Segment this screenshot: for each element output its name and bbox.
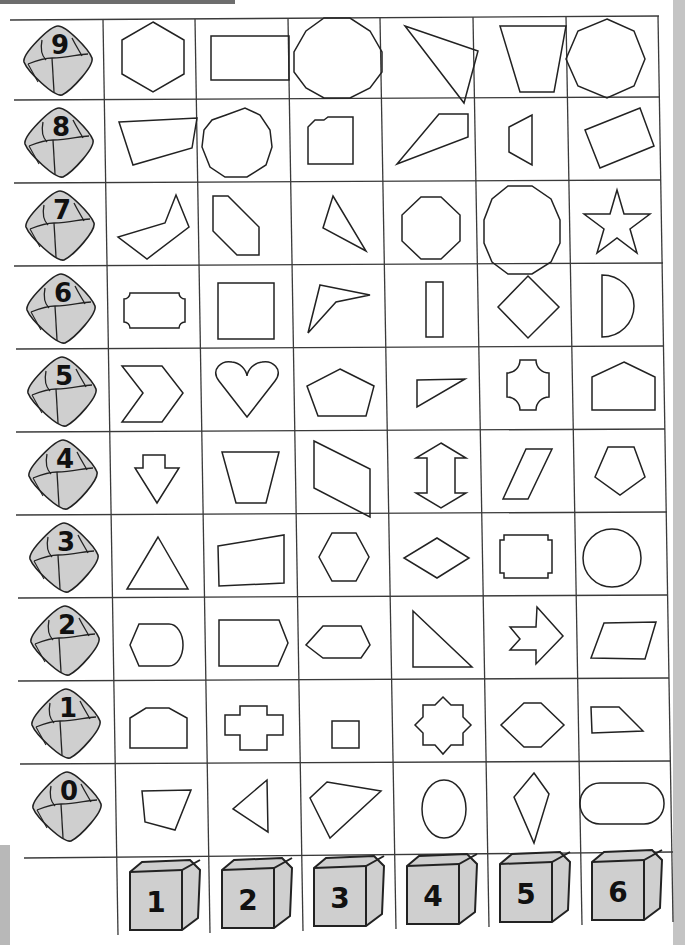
shape-cut-pentagon	[130, 708, 187, 748]
shape-right-trapezoid	[218, 535, 284, 586]
shape-arrow	[510, 607, 563, 664]
shape-kite	[514, 773, 549, 843]
shape-right-triangle	[417, 379, 465, 407]
shape-trapezoid	[500, 26, 566, 92]
cube-1: 1	[130, 860, 200, 930]
shape-triangle	[233, 780, 268, 832]
shape-heart	[216, 362, 278, 417]
svg-text:6: 6	[608, 876, 627, 909]
shape-house-pentagon	[592, 362, 655, 410]
shape-rhombus	[404, 538, 469, 578]
shape-parallelogram	[591, 622, 656, 659]
die-3: 3	[30, 523, 98, 592]
shape-obtuse-triangle	[397, 114, 468, 164]
shape-wide-hexagon	[306, 626, 370, 658]
shape-right-trapezoid	[591, 707, 643, 733]
shape-parallelogram	[314, 441, 370, 517]
svg-text:9: 9	[51, 30, 69, 60]
die-1: 1	[32, 689, 100, 758]
shape-concave-quadrilateral	[308, 285, 370, 333]
shape-hexagon	[319, 533, 369, 581]
shape-pentagon-arrow	[219, 620, 288, 666]
shape-quadrilateral	[119, 118, 197, 165]
shape-equilateral-triangle	[127, 537, 188, 589]
shape-coordinate-grid: 9 8 7 6 5 4 3 2 1 0 1 2 3 4 5 6	[0, 0, 685, 945]
die-6: 6	[27, 274, 95, 343]
shape-small-square	[332, 721, 359, 748]
cube-3: 3	[314, 856, 384, 926]
shape-stadium	[580, 783, 664, 824]
shape-hexagon	[501, 703, 564, 747]
svg-text:8: 8	[52, 112, 70, 142]
shape-concave-hexagon	[118, 195, 189, 259]
die-5: 5	[28, 357, 96, 426]
svg-text:3: 3	[330, 882, 349, 915]
shape-rounded-hexagon	[130, 624, 183, 666]
cube-6: 6	[592, 850, 662, 920]
shape-decagon	[484, 186, 560, 274]
svg-text:1: 1	[146, 886, 165, 919]
shape-notched-rectangle	[500, 535, 552, 578]
shape-diamond	[498, 276, 559, 338]
shape-right-triangle	[413, 611, 472, 667]
die-4: 4	[29, 440, 97, 509]
shape-inverted-trapezoid	[222, 452, 279, 503]
shape-decagon	[202, 108, 272, 177]
svg-text:0: 0	[60, 776, 78, 806]
shape-concave-cross	[507, 360, 549, 410]
shape-pentagon	[595, 447, 645, 495]
svg-text:4: 4	[423, 880, 442, 913]
grid-lines	[10, 16, 673, 935]
shape-tilted-rectangle	[585, 108, 654, 168]
cube-4: 4	[407, 854, 477, 924]
die-0: 0	[33, 772, 101, 841]
shape-rectangle	[211, 36, 289, 80]
shape-quadrilateral	[310, 782, 381, 838]
shape-down-arrow	[135, 455, 179, 503]
shape-heptagon	[566, 19, 645, 98]
shape-cut-rectangle	[308, 117, 353, 164]
shape-scalene-triangle	[405, 26, 478, 103]
svg-text:2: 2	[238, 884, 257, 917]
shape-double-arrow	[416, 443, 466, 508]
shape-pentagon	[307, 369, 374, 416]
svg-text:7: 7	[53, 195, 71, 225]
shape-octagon	[402, 197, 460, 259]
cube-2: 2	[222, 858, 292, 928]
shape-trapezoid-side	[509, 115, 532, 165]
svg-text:4: 4	[56, 444, 74, 474]
shape-ellipse	[422, 780, 466, 838]
shape-decagon	[294, 18, 382, 98]
svg-text:6: 6	[54, 278, 72, 308]
shape-hexagon	[122, 22, 184, 92]
shape-scalene-triangle	[323, 196, 366, 251]
shape-quadrilateral	[142, 790, 191, 830]
svg-text:2: 2	[58, 610, 76, 640]
die-7: 7	[26, 191, 94, 260]
shape-semicircle	[602, 275, 634, 337]
shape-circle	[583, 529, 641, 587]
shape-elongated-hexagon	[213, 196, 259, 255]
die-2: 2	[31, 606, 99, 675]
svg-text:3: 3	[57, 527, 75, 557]
shape-slanted-parallelogram	[503, 449, 552, 499]
svg-text:5: 5	[55, 361, 73, 391]
svg-text:1: 1	[59, 693, 77, 723]
row-labels: 9 8 7 6 5 4 3 2 1 0	[24, 26, 101, 841]
cube-5: 5	[500, 852, 570, 922]
die-8: 8	[25, 108, 93, 177]
shape-cross	[225, 706, 283, 750]
shape-notched-rectangle	[124, 293, 185, 328]
svg-text:5: 5	[516, 878, 535, 911]
shape-square	[218, 283, 274, 339]
shape-eight-point-star	[415, 697, 471, 754]
shape-star	[584, 190, 650, 253]
shape-chevron	[122, 366, 183, 422]
shape-thin-rectangle	[426, 282, 443, 337]
die-9: 9	[24, 26, 92, 95]
